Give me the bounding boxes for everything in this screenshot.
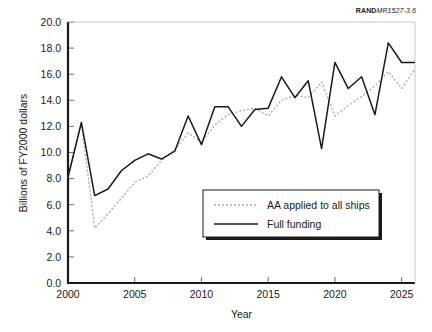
y-tick-label: 16.0 bbox=[41, 68, 62, 80]
legend-label: Full funding bbox=[267, 218, 321, 230]
y-tick-label: 8.0 bbox=[46, 172, 61, 184]
x-tick-label: 2025 bbox=[390, 288, 414, 300]
y-tick-label: 4.0 bbox=[46, 225, 61, 237]
x-tick-label: 2010 bbox=[190, 288, 214, 300]
x-tick-labels: 200020052010201520202025 bbox=[56, 288, 413, 300]
y-tick-label: 2.0 bbox=[46, 251, 61, 263]
series-line bbox=[68, 43, 415, 196]
plot-area: 0.02.04.06.08.010.012.014.016.018.020.0 … bbox=[0, 0, 432, 332]
y-tick-label: 20.0 bbox=[41, 16, 62, 28]
chart-figure: RANDMR1527-3.6 Billions of FY2000 dollar… bbox=[0, 0, 432, 332]
axis-lines bbox=[68, 22, 415, 283]
chart-legend: AA applied to all shipsFull funding bbox=[203, 190, 382, 240]
y-tick-label: 10.0 bbox=[41, 146, 62, 158]
y-tick-label: 0.0 bbox=[46, 277, 61, 289]
y-tick-label: 6.0 bbox=[46, 199, 61, 211]
x-tick-label: 2015 bbox=[257, 288, 281, 300]
legend-label: AA applied to all ships bbox=[267, 199, 370, 211]
y-tick-label: 18.0 bbox=[41, 42, 62, 54]
axis-spine bbox=[68, 22, 415, 283]
y-tick-label: 14.0 bbox=[41, 94, 62, 106]
y-tick-labels: 0.02.04.06.08.010.012.014.016.018.020.0 bbox=[41, 16, 62, 289]
x-tick-label: 2000 bbox=[56, 288, 80, 300]
y-tick-label: 12.0 bbox=[41, 120, 62, 132]
plot-frame bbox=[68, 22, 415, 283]
x-tick-label: 2005 bbox=[123, 288, 147, 300]
x-tick-label: 2020 bbox=[323, 288, 347, 300]
